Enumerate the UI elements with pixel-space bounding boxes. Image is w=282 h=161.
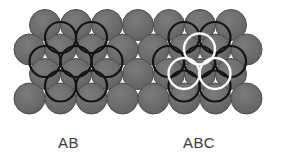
sphere [14,83,45,114]
sphere [107,83,138,114]
sphere [231,83,262,114]
caption-abc: ABC [183,134,215,151]
close-packing-figure: AB ABC [0,0,282,161]
caption-row: AB ABC [0,131,282,161]
sphere [138,83,169,114]
caption-ab: AB [58,134,79,151]
